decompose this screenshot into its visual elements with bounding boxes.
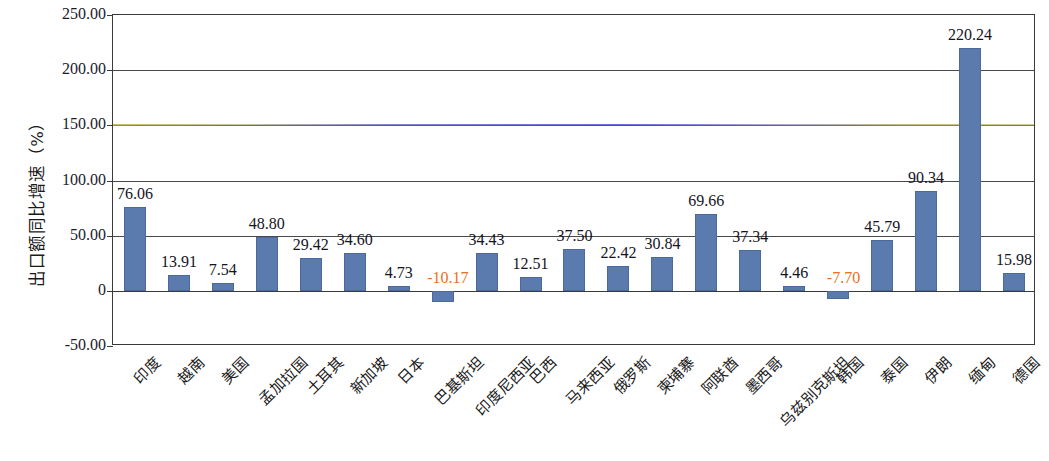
bar-value-label: 76.06 [117,186,153,202]
bar [476,253,498,291]
x-label-slot: 柬埔寨 [639,347,683,459]
x-label-slot: 阿联酋 [683,347,727,459]
bar [300,258,322,290]
bar [915,191,937,291]
bar [212,283,234,291]
x-label-slot: 新加坡 [332,347,376,459]
bar-group: 30.84 [640,15,684,344]
bar-group: 220.24 [948,15,992,344]
bar [827,291,849,299]
x-label-slot: 日本 [376,347,420,459]
bar-value-label: 7.54 [209,262,237,278]
bar [651,257,673,291]
x-label-slot: 巴西 [508,347,552,459]
bar [388,286,410,291]
bar-value-label: 48.80 [249,216,285,232]
x-axis-category-label: 德国 [1007,351,1043,387]
bar [871,240,893,291]
bar-value-label: 15.98 [996,252,1032,268]
bar [124,207,146,291]
bar [344,253,366,291]
bar-group: 4.46 [772,15,816,344]
bar-group: 76.06 [113,15,157,344]
x-label-slot: 俄罗斯 [595,347,639,459]
x-label-slot: 孟加拉国 [244,347,288,459]
bar-group: 45.79 [860,15,904,344]
bar-group: -7.70 [816,15,860,344]
bar-value-label: 45.79 [864,219,900,235]
x-label-slot: 伊朗 [903,347,947,459]
bar-value-label: 69.66 [688,193,724,209]
bar-group: 37.34 [728,15,772,344]
bar-value-label: 37.34 [732,229,768,245]
bar [1003,273,1025,291]
plot-area: 76.0613.917.5448.8029.4234.604.73-10.173… [112,14,1035,345]
bar-value-label: 37.50 [556,228,592,244]
bar-value-label: 4.73 [385,265,413,281]
bar-group: 69.66 [684,15,728,344]
bar-value-label: 12.51 [513,256,549,272]
bar-group: 15.98 [992,15,1036,344]
y-axis-tick-label: 150.00 [22,116,106,132]
bar-group: -10.17 [421,15,465,344]
bar-chart: 出口额同比增速（%） 250.00200.00150.00100.0050.00… [0,0,1049,461]
bar-group: 4.73 [377,15,421,344]
bar-value-label: -7.70 [827,270,860,286]
bar-value-label: 29.42 [293,237,329,253]
x-label-slot: 越南 [156,347,200,459]
bar [959,48,981,291]
x-label-slot: 乌兹别克斯坦 [771,347,815,459]
x-label-slot: 印度尼西亚 [464,347,508,459]
bar-group: 22.42 [596,15,640,344]
bar-value-label: 34.43 [469,232,505,248]
x-label-slot: 土耳其 [288,347,332,459]
y-axis-tick-label: -50.00 [22,337,106,353]
y-axis-tick-label: 100.00 [22,172,106,188]
bar-value-label: 30.84 [644,236,680,252]
bar-value-label: 13.91 [161,254,197,270]
x-axis-category-labels: 印度越南美国孟加拉国土耳其新加坡日本巴基斯坦印度尼西亚巴西马来西亚俄罗斯柬埔寨阿… [112,347,1035,459]
x-label-slot: 缅甸 [947,347,991,459]
x-label-slot: 马来西亚 [552,347,596,459]
bar-group: 90.34 [904,15,948,344]
x-label-slot: 德国 [991,347,1035,459]
y-axis-tick-labels: 250.00200.00150.00100.0050.000-50.00 [16,0,106,461]
bar [563,249,585,290]
bar-group: 7.54 [201,15,245,344]
bar-group: 37.50 [553,15,597,344]
bar-value-label: 34.60 [337,232,373,248]
bar-group: 13.91 [157,15,201,344]
bar-value-label: -10.17 [427,270,468,286]
bar [168,275,190,290]
bar-group: 34.43 [465,15,509,344]
bar-value-label: 22.42 [600,245,636,261]
bar-value-label: 220.24 [948,27,992,43]
x-label-slot: 印度 [112,347,156,459]
x-label-slot: 美国 [200,347,244,459]
bar [432,291,454,302]
bar [695,214,717,291]
bar [256,237,278,291]
y-axis-tick-label: 200.00 [22,61,106,77]
y-axis-tick-label: 50.00 [22,227,106,243]
bar [520,277,542,291]
x-label-slot: 韩国 [815,347,859,459]
bar-group: 48.80 [245,15,289,344]
bar-series: 76.0613.917.5448.8029.4234.604.73-10.173… [113,15,1034,344]
x-label-slot: 墨西哥 [727,347,771,459]
bar [739,250,761,291]
x-label-slot: 泰国 [859,347,903,459]
bar-value-label: 90.34 [908,170,944,186]
bar-group: 12.51 [509,15,553,344]
bar-value-label: 4.46 [780,265,808,281]
bar-group: 34.60 [333,15,377,344]
x-label-slot: 巴基斯坦 [420,347,464,459]
y-axis-tick-label: 0 [22,282,106,298]
bar-group: 29.42 [289,15,333,344]
bar [783,286,805,291]
y-axis-tick-label: 250.00 [22,6,106,22]
bar [607,266,629,291]
